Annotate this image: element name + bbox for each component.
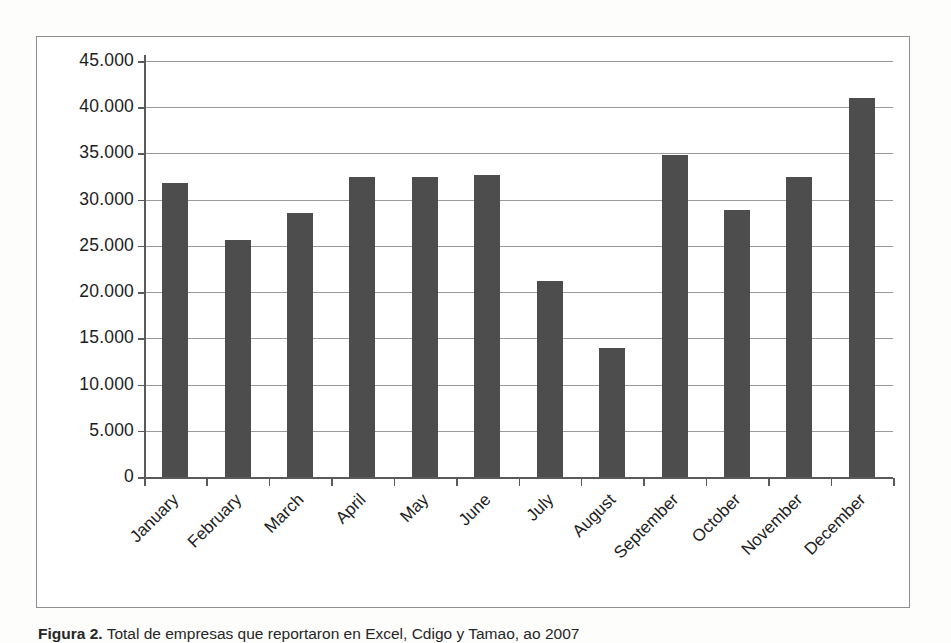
- bar-slot: [831, 61, 893, 477]
- bar-slot: [269, 61, 331, 477]
- bar: [287, 213, 313, 477]
- y-tick-label: 35.000: [44, 144, 134, 162]
- x-label-slot: February: [206, 486, 268, 596]
- bar-slot: [519, 61, 581, 477]
- bar-slot: [643, 61, 705, 477]
- x-label-slot: April: [331, 486, 393, 596]
- bar: [349, 177, 375, 477]
- y-tick-label: 30.000: [44, 191, 134, 209]
- x-label-slot: July: [519, 486, 581, 596]
- x-tick-label-text: May: [396, 490, 433, 527]
- y-tick-label: 5.000: [44, 422, 134, 440]
- x-tick-mark: [144, 478, 146, 486]
- bar-slot: [706, 61, 768, 477]
- x-tick-label-text: June: [455, 490, 495, 530]
- figure-caption-text: Total de empresas que reportaron en Exce…: [107, 625, 580, 642]
- bar: [786, 177, 812, 477]
- x-tick-label-text: July: [522, 490, 558, 526]
- x-axis-tick-labels: JanuaryFebruaryMarchAprilMayJuneJulyAugu…: [144, 486, 893, 596]
- bar-slot: [581, 61, 643, 477]
- bar: [662, 155, 688, 477]
- y-tick-label: 0: [44, 468, 134, 486]
- bar-slot: [768, 61, 830, 477]
- bar: [162, 183, 188, 477]
- bar-slot: [394, 61, 456, 477]
- bar: [225, 240, 251, 477]
- bar: [412, 177, 438, 477]
- bar-slot: [331, 61, 393, 477]
- bar-series: [144, 61, 893, 477]
- bar: [537, 281, 563, 477]
- x-label-slot: March: [269, 486, 331, 596]
- bar-slot: [456, 61, 518, 477]
- y-tick-label: 25.000: [44, 237, 134, 255]
- x-tick-mark: [456, 478, 458, 486]
- figure-caption: Figura 2. Total de empresas que reportar…: [38, 624, 928, 643]
- x-label-slot: December: [831, 486, 893, 596]
- bar: [599, 348, 625, 477]
- y-tick-label: 40.000: [44, 98, 134, 116]
- figure-caption-label: Figura 2.: [38, 625, 103, 642]
- bar: [474, 175, 500, 477]
- y-tick-label: 20.000: [44, 283, 134, 301]
- y-axis-tick-labels: 05.00010.00015.00020.00025.00030.00035.0…: [44, 0, 134, 643]
- bar-slot: [206, 61, 268, 477]
- x-label-slot: May: [394, 486, 456, 596]
- y-tick-label: 10.000: [44, 376, 134, 394]
- y-tick-label: 15.000: [44, 329, 134, 347]
- x-label-slot: June: [456, 486, 518, 596]
- y-tick-label: 45.000: [44, 52, 134, 70]
- bar: [849, 98, 875, 477]
- scanned-page: 05.00010.00015.00020.00025.00030.00035.0…: [0, 0, 951, 643]
- x-tick-mark: [581, 478, 583, 486]
- bar-slot: [144, 61, 206, 477]
- x-tick-label-text: April: [332, 490, 370, 528]
